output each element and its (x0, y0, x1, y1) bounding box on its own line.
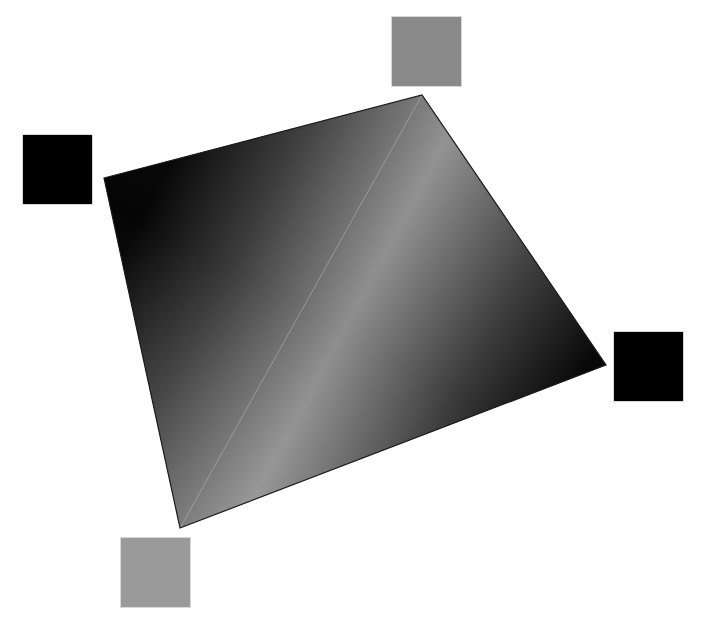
corner-swatch-top-right (391, 16, 462, 87)
corner-swatch-right (613, 331, 684, 402)
corner-swatch-bottom-left (120, 537, 191, 608)
shaded-quadrilateral (0, 0, 701, 623)
corner-swatch-top-left (22, 134, 93, 205)
figure-canvas: Bilinear color interpolation across a qu… (0, 0, 701, 623)
